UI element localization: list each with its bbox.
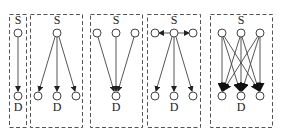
panel-many-to-one: S D: [91, 13, 143, 128]
source-label: S: [171, 13, 178, 27]
destination-label: D: [112, 100, 121, 114]
source-node: [112, 29, 120, 37]
source-node: [237, 29, 245, 37]
edge: [59, 37, 75, 91]
edge: [224, 36, 259, 91]
destination-node: [112, 92, 120, 100]
source-node: [131, 29, 139, 37]
destination-node: [151, 92, 159, 100]
destination-label: D: [14, 100, 23, 114]
source-label: S: [113, 13, 120, 27]
panel-relay-one-to-many: S D: [148, 13, 201, 128]
panel-many-to-many: S D: [211, 13, 273, 128]
source-node: [256, 29, 264, 37]
destination-node: [218, 92, 226, 100]
destination-label: D: [53, 100, 62, 114]
edge: [156, 37, 172, 91]
destination-node: [53, 92, 61, 100]
edge: [223, 36, 258, 91]
source-node: [93, 29, 101, 37]
source-node: [53, 29, 61, 37]
source-node: [189, 29, 197, 37]
destination-node: [256, 92, 264, 100]
destination-label: D: [237, 100, 246, 114]
edge: [39, 37, 55, 91]
edge: [176, 37, 192, 91]
edge: [118, 37, 134, 91]
source-label: S: [238, 13, 245, 27]
destination-node: [34, 92, 42, 100]
destination-node: [189, 92, 197, 100]
destination-node: [14, 92, 22, 100]
source-label: S: [15, 13, 22, 27]
destination-label: D: [170, 100, 179, 114]
destination-node: [237, 92, 245, 100]
destination-node: [170, 92, 178, 100]
edge: [98, 37, 114, 91]
source-node: [218, 29, 226, 37]
source-node: [151, 29, 159, 37]
source-node: [170, 29, 178, 37]
communication-patterns-diagram: S D S D S D S: [0, 0, 281, 136]
source-label: S: [54, 13, 61, 27]
destination-node: [72, 92, 80, 100]
source-node: [14, 29, 22, 37]
panel-one-to-many: S D: [31, 13, 83, 128]
panel-one-to-one: S D: [10, 13, 27, 128]
